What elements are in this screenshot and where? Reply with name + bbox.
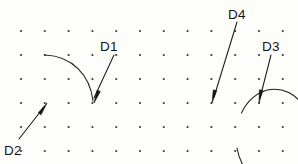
grid-dot bbox=[258, 54, 260, 56]
grid-dot bbox=[210, 54, 212, 56]
leader-d4 bbox=[214, 22, 237, 97]
grid-dot bbox=[139, 78, 141, 80]
grid-dot bbox=[20, 54, 22, 56]
grid-dot bbox=[91, 54, 93, 56]
grid-dot bbox=[20, 102, 22, 104]
grid-dot bbox=[282, 102, 284, 104]
large-circle-right bbox=[237, 89, 298, 164]
grid-dot bbox=[20, 126, 22, 128]
grid-dot bbox=[115, 78, 117, 80]
geometry-curves bbox=[45, 55, 298, 164]
grid-dot bbox=[234, 150, 236, 152]
figure-canvas: D1D2D3D4 bbox=[0, 0, 298, 164]
grid-dot bbox=[163, 30, 165, 32]
grid-dot bbox=[163, 126, 165, 128]
grid-dot bbox=[234, 78, 236, 80]
grid-dot bbox=[20, 30, 22, 32]
grid-dot bbox=[234, 54, 236, 56]
grid-dot bbox=[163, 78, 165, 80]
grid-dot bbox=[44, 78, 46, 80]
grid-dot bbox=[234, 126, 236, 128]
grid-dot bbox=[187, 102, 189, 104]
grid-dot bbox=[139, 102, 141, 104]
grid-dot bbox=[139, 30, 141, 32]
grid-dot bbox=[91, 126, 93, 128]
dot-grid bbox=[20, 30, 284, 152]
grid-dot bbox=[282, 78, 284, 80]
grid-dot bbox=[187, 126, 189, 128]
grid-dot bbox=[44, 150, 46, 152]
grid-dot bbox=[91, 150, 93, 152]
grid-dot bbox=[115, 30, 117, 32]
grid-dot bbox=[44, 30, 46, 32]
grid-dot bbox=[91, 30, 93, 32]
grid-dot bbox=[44, 102, 46, 104]
grid-dot bbox=[163, 54, 165, 56]
grid-dot bbox=[68, 102, 70, 104]
grid-dot bbox=[115, 54, 117, 56]
grid-dot bbox=[282, 30, 284, 32]
leader-d3-arrowhead bbox=[259, 90, 263, 103]
grid-dot bbox=[91, 102, 93, 104]
dimension-label-d1: D1 bbox=[100, 39, 118, 54]
grid-dot bbox=[210, 126, 212, 128]
grid-dot bbox=[115, 102, 117, 104]
grid-dot bbox=[20, 78, 22, 80]
technical-drawing: D1D2D3D4 bbox=[0, 0, 298, 164]
grid-dot bbox=[282, 54, 284, 56]
grid-dot bbox=[187, 150, 189, 152]
grid-dot bbox=[115, 126, 117, 128]
grid-dot bbox=[258, 150, 260, 152]
grid-dot bbox=[163, 102, 165, 104]
grid-dot bbox=[210, 78, 212, 80]
grid-dot bbox=[258, 126, 260, 128]
grid-dot bbox=[282, 150, 284, 152]
grid-dot bbox=[68, 30, 70, 32]
leader-lines bbox=[19, 22, 271, 139]
grid-dot bbox=[258, 78, 260, 80]
leader-d4-arrowhead bbox=[212, 90, 217, 103]
grid-dot bbox=[210, 30, 212, 32]
grid-dot bbox=[139, 126, 141, 128]
dimension-label-d3: D3 bbox=[262, 39, 280, 54]
grid-dot bbox=[68, 150, 70, 152]
grid-dot bbox=[187, 30, 189, 32]
grid-dot bbox=[258, 30, 260, 32]
grid-dot bbox=[282, 126, 284, 128]
grid-dot bbox=[234, 102, 236, 104]
leader-d2-arrowhead bbox=[38, 103, 47, 115]
grid-dot bbox=[68, 78, 70, 80]
grid-dot bbox=[115, 150, 117, 152]
grid-dot bbox=[210, 150, 212, 152]
grid-dot bbox=[139, 150, 141, 152]
dimension-labels: D1D2D3D4 bbox=[4, 7, 280, 158]
grid-dot bbox=[187, 78, 189, 80]
dimension-label-d2: D2 bbox=[4, 143, 22, 158]
grid-dot bbox=[68, 54, 70, 56]
dimension-label-d4: D4 bbox=[228, 7, 246, 22]
grid-dot bbox=[91, 78, 93, 80]
grid-dot bbox=[44, 126, 46, 128]
grid-dot bbox=[139, 54, 141, 56]
grid-dot bbox=[68, 126, 70, 128]
grid-dot bbox=[163, 150, 165, 152]
grid-dot bbox=[187, 54, 189, 56]
